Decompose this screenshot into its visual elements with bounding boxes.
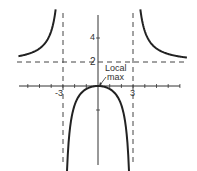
- graph: -3 3 2 4 Local max: [0, 0, 197, 171]
- y-tick-label-2: 2: [90, 57, 96, 67]
- function-curves: [18, 9, 186, 171]
- x-tick-label-neg3: -3: [55, 89, 63, 98]
- left-branch-curve: [18, 9, 55, 56]
- local-max-label-line2: max: [107, 73, 124, 82]
- right-branch-curve: [140, 9, 187, 57]
- x-tick-label-3: 3: [130, 89, 135, 98]
- plot-area: [0, 0, 197, 171]
- y-tick-label-4: 4: [90, 33, 95, 42]
